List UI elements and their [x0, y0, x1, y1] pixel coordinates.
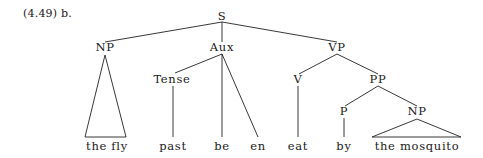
tree-node-p: P [340, 104, 348, 118]
tree-branch-vp-to-v [299, 54, 337, 74]
tree-node-aux: Aux [209, 40, 234, 54]
syntax-tree-figure: (4.49) b. SNPAuxVPTenseVPPPNP the flypas… [0, 0, 483, 158]
tree-node-s: S [218, 9, 227, 23]
tree-leaf-l2: past [159, 139, 187, 153]
tree-node-np1: NP [95, 40, 114, 54]
tree-branch-aux-to-en [222, 54, 258, 137]
tree-branch-aux-to-tense [175, 54, 222, 73]
tree-node-np2: NP [407, 104, 426, 118]
nonterminal-nodes-group: SNPAuxVPTenseVPPPNP [95, 9, 426, 118]
tree-leaf-l3: be [214, 139, 230, 153]
phrase-triangle-np1 [85, 55, 126, 137]
tree-node-pp: PP [370, 72, 387, 86]
tree-branch-pp-to-np2 [378, 86, 417, 106]
tree-leaf-l6: by [336, 139, 351, 153]
tree-branch-pp-to-p [345, 86, 378, 106]
tree-node-vp: VP [327, 40, 345, 54]
tree-leaf-l1: the fly [86, 139, 128, 153]
tree-leaf-l5: eat [288, 139, 308, 153]
syntax-tree-diagram: SNPAuxVPTenseVPPPNP the flypastbeeneatby… [0, 0, 483, 158]
triangle-group [85, 55, 461, 137]
tree-node-v: V [292, 72, 302, 86]
tree-branch-s-to-vp [222, 22, 337, 42]
tree-leaf-l7: the mosquito [375, 139, 460, 153]
tree-node-tense: Tense [153, 72, 190, 86]
phrase-triangle-np2 [372, 119, 461, 137]
terminal-leaves-group: the flypastbeeneatbythe mosquito [86, 139, 459, 153]
tree-leaf-l4: en [250, 139, 266, 153]
tree-branch-s-to-np1 [105, 22, 222, 42]
tree-branch-vp-to-pp [337, 54, 378, 74]
